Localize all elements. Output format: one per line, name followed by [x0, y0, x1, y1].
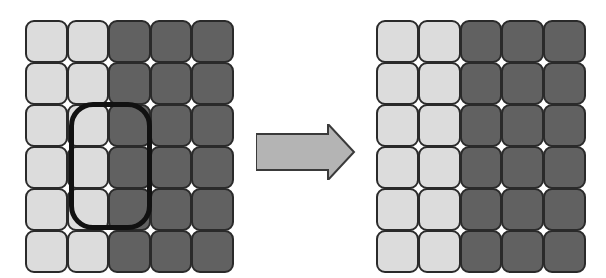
before-cell-dark [150, 62, 193, 105]
before-cell-dark [150, 188, 193, 231]
after-grid [376, 20, 585, 272]
after-cell-light [376, 230, 419, 273]
before-cell-light [25, 230, 68, 273]
before-cell-light [25, 20, 68, 63]
arrow-shape [256, 124, 354, 180]
after-cell-dark [543, 146, 586, 189]
after-cell-light [418, 230, 461, 273]
before-cell-dark [108, 62, 151, 105]
after-cell-light [376, 188, 419, 231]
after-cell-dark [460, 146, 503, 189]
before-cell-dark [108, 230, 151, 273]
after-cell-dark [501, 146, 544, 189]
before-cell-dark [150, 230, 193, 273]
before-cell-light [67, 230, 110, 273]
before-cell-dark [191, 230, 234, 273]
after-cell-light [376, 146, 419, 189]
before-cell-light [25, 146, 68, 189]
after-cell-light [418, 20, 461, 63]
after-cell-light [418, 146, 461, 189]
before-cell-dark [191, 62, 234, 105]
before-cell-dark [191, 146, 234, 189]
after-cell-dark [543, 230, 586, 273]
before-cell-light [67, 62, 110, 105]
after-cell-dark [460, 230, 503, 273]
after-cell-dark [501, 20, 544, 63]
after-cell-light [376, 20, 419, 63]
after-cell-light [376, 62, 419, 105]
after-cell-light [418, 62, 461, 105]
before-cell-light [25, 104, 68, 147]
after-cell-dark [543, 104, 586, 147]
after-cell-dark [501, 104, 544, 147]
selection-box [69, 102, 152, 230]
after-cell-light [418, 104, 461, 147]
before-cell-light [25, 188, 68, 231]
before-cell-dark [150, 20, 193, 63]
right-arrow-icon [256, 124, 356, 180]
after-cell-dark [543, 20, 586, 63]
after-cell-dark [460, 62, 503, 105]
before-cell-dark [191, 188, 234, 231]
before-cell-dark [150, 146, 193, 189]
after-cell-dark [501, 188, 544, 231]
before-cell-light [67, 20, 110, 63]
after-cell-dark [460, 104, 503, 147]
after-cell-dark [460, 188, 503, 231]
after-cell-dark [501, 62, 544, 105]
after-cell-dark [543, 62, 586, 105]
before-cell-dark [191, 104, 234, 147]
after-cell-dark [501, 230, 544, 273]
after-cell-light [418, 188, 461, 231]
before-cell-dark [108, 20, 151, 63]
before-grid [25, 20, 233, 272]
after-cell-dark [543, 188, 586, 231]
before-cell-light [25, 62, 68, 105]
after-cell-dark [460, 20, 503, 63]
after-cell-light [376, 104, 419, 147]
before-cell-dark [191, 20, 234, 63]
before-cell-dark [150, 104, 193, 147]
